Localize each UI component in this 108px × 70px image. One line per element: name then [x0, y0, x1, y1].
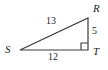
vertex-label-r: R [93, 3, 100, 14]
side-length-label-sr: 13 [46, 16, 56, 26]
vertex-label-t: T [93, 46, 99, 57]
vertex-label-s: S [5, 44, 11, 55]
side-length-label-rt: 5 [92, 26, 97, 36]
side-length-label-st: 12 [48, 52, 58, 62]
right-triangle-figure: S R T 13 5 12 [0, 0, 108, 70]
right-angle-square-icon [81, 43, 88, 50]
